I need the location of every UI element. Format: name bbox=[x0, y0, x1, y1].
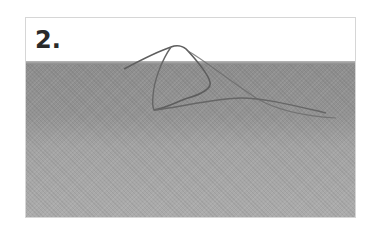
step-number-label: 2. bbox=[35, 26, 61, 54]
step-image-frame: 2. bbox=[25, 17, 356, 218]
thread-loop-icon bbox=[26, 18, 356, 218]
